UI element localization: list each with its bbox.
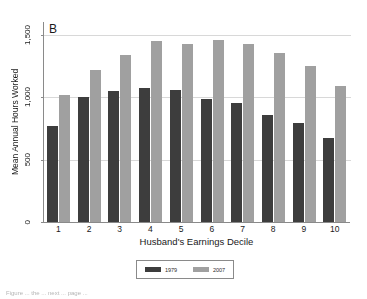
x-tick-label: 3 [104, 224, 135, 235]
bar-group [320, 22, 351, 222]
bar-1979-decile-4 [139, 88, 150, 222]
bar-group [75, 22, 106, 222]
legend-swatch-2007 [193, 267, 209, 272]
x-tick-label: 7 [227, 224, 258, 235]
bar-group [136, 22, 167, 222]
y-tick-label: 500 [24, 153, 32, 166]
bar-1979-decile-3 [108, 91, 119, 222]
y-tick-label: 1,000 [24, 87, 32, 107]
bar-group [259, 22, 290, 222]
x-axis-line [43, 222, 350, 223]
bar-2007-decile-4 [151, 41, 162, 222]
plot-area [43, 22, 350, 222]
y-tick-label: 1,500 [24, 25, 32, 45]
bar-group [167, 22, 198, 222]
bar-2007-decile-7 [243, 44, 254, 222]
bar-1979-decile-5 [170, 90, 181, 223]
bar-1979-decile-1 [47, 126, 58, 222]
legend-label-1979: 1979 [165, 267, 177, 273]
bar-2007-decile-6 [213, 40, 224, 223]
bar-2007-decile-3 [120, 55, 131, 223]
bar-group [228, 22, 259, 222]
x-tick-label: 10 [319, 224, 350, 235]
bar-2007-decile-5 [182, 44, 193, 222]
x-tick-label: 4 [135, 224, 166, 235]
x-tick-label: 6 [197, 224, 228, 235]
bar-2007-decile-8 [274, 53, 285, 222]
bar-2007-decile-10 [335, 86, 346, 222]
bar-1979-decile-9 [293, 123, 304, 222]
bar-1979-decile-8 [262, 115, 273, 223]
bar-1979-decile-6 [201, 99, 212, 222]
x-tick-label: 1 [43, 224, 74, 235]
bar-2007-decile-9 [305, 66, 316, 222]
panel-label: B [49, 23, 57, 35]
legend-swatch-1979 [145, 267, 161, 272]
legend-item-2007: 2007 [193, 267, 225, 273]
y-tick-label: 0 [24, 220, 32, 224]
bar-1979-decile-2 [78, 97, 89, 222]
chart-legend: 19792007 [136, 260, 234, 279]
bar-1979-decile-7 [231, 103, 242, 222]
legend-item-1979: 1979 [145, 267, 177, 273]
caption-fragment: Figure ... the ... next ... page ... [6, 290, 356, 297]
y-axis-title: Mean Annual Hours Worked [9, 22, 21, 222]
bar-group [105, 22, 136, 222]
bar-group [290, 22, 321, 222]
legend-label-2007: 2007 [213, 267, 225, 273]
x-tick-label: 2 [74, 224, 105, 235]
x-tick-label: 9 [289, 224, 320, 235]
bar-2007-decile-1 [59, 95, 70, 223]
x-axis-tick-labels: 12345678910 [43, 224, 350, 236]
bar-2007-decile-2 [90, 70, 101, 223]
bar-group [198, 22, 229, 222]
bar-group [44, 22, 75, 222]
bar-groups [44, 22, 351, 222]
bar-1979-decile-10 [323, 138, 334, 222]
x-tick-label: 5 [166, 224, 197, 235]
x-axis-title: Husband's Earnings Decile [43, 236, 350, 247]
x-tick-label: 8 [258, 224, 289, 235]
figure-panel-b: Mean Annual Hours Worked 05001,0001,500 … [0, 0, 367, 299]
